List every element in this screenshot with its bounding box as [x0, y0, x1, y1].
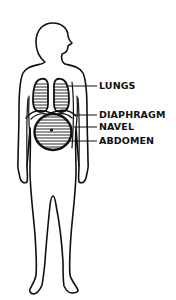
label-abdomen: ABDOMEN [99, 136, 154, 146]
body-outline [18, 23, 89, 294]
navel-dot [50, 128, 53, 131]
label-navel: NAVEL [99, 122, 134, 132]
body-diagram [0, 0, 176, 300]
label-diaphragm: DIAPHRAGM [99, 110, 166, 120]
body-silhouette [18, 23, 89, 294]
label-lungs: LUNGS [99, 81, 136, 91]
